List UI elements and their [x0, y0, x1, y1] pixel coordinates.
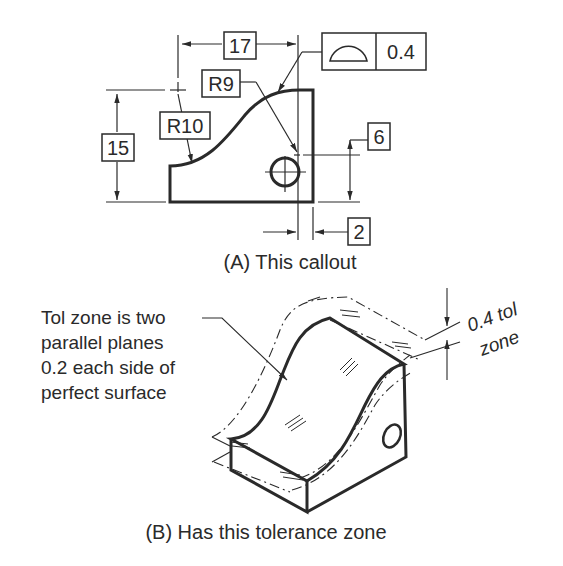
dim-r10-label: R10: [167, 115, 204, 137]
part-top-surface: [231, 318, 404, 481]
view-a-caption: (A) This callout: [223, 251, 356, 273]
dim-17-label: 17: [229, 35, 251, 57]
side-hole: [380, 422, 405, 451]
note-line-2: parallel planes: [41, 332, 164, 353]
dim-2-label: 2: [353, 221, 364, 243]
fcf-tolerance-value: 0.4: [387, 41, 415, 63]
dim-6-label: 6: [373, 126, 384, 148]
dim-r9-label: R9: [208, 73, 234, 95]
dim-15-label: 15: [107, 137, 129, 159]
note-line-1: Tol zone is two: [41, 307, 166, 328]
note-line-4: perfect surface: [41, 382, 167, 403]
note-line-3: 0.2 each side of: [41, 357, 176, 378]
view-b-caption: (B) Has this tolerance zone: [145, 521, 386, 543]
drawing-canvas: 17 15 R9 R10 6 2 0.4 (A) This callout: [0, 0, 563, 566]
view-b-isometric: [202, 288, 460, 512]
